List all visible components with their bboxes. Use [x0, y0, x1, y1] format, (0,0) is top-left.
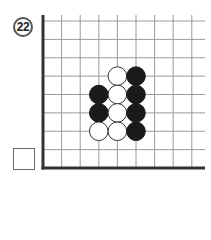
white-stone: [108, 67, 127, 86]
black-stone: [90, 85, 109, 104]
white-stone: [90, 122, 109, 141]
white-stone: [108, 104, 127, 123]
white-stone: [108, 85, 127, 104]
black-stone: [127, 122, 146, 141]
black-stone: [127, 67, 146, 86]
board-stones: [90, 67, 146, 141]
black-stone: [127, 104, 146, 123]
answer-box[interactable]: [13, 148, 35, 170]
black-stone: [127, 85, 146, 104]
white-stone: [108, 122, 127, 141]
black-stone: [90, 104, 109, 123]
